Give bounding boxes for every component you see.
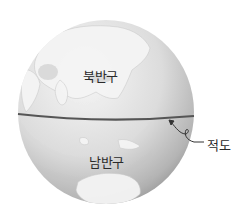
globe (18, 20, 194, 206)
northern-hemisphere-label: 북반구 (83, 66, 118, 85)
equator-label: 적도 (207, 135, 230, 154)
globe-diagram (0, 0, 247, 219)
southern-hemisphere-label: 남반구 (89, 152, 124, 171)
